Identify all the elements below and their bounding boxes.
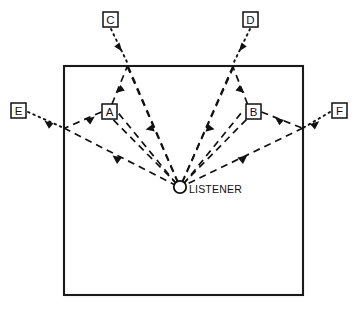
arrowhead-C-incoming: [114, 43, 122, 52]
ray-E-reflect-to-listener: [64, 128, 177, 186]
source-letter-C: C: [106, 14, 114, 26]
arrowhead-F-incoming: [310, 121, 319, 129]
listener-label: LISTENER: [189, 183, 242, 195]
ray-E-incoming-group: [28, 112, 64, 129]
ray-F-incoming-group: [303, 112, 330, 129]
listener-circle: [174, 181, 186, 193]
ray-A-group: [112, 67, 178, 185]
source-label-C: C: [103, 12, 118, 27]
ray-listener-to-left-wall-inner: [118, 112, 177, 184]
source-letter-D: D: [246, 14, 254, 26]
ray-F-reflect-group: [183, 128, 303, 186]
path-label-A: A: [102, 104, 117, 119]
source-label-E: E: [11, 103, 26, 118]
arrowhead-D-incoming: [239, 43, 247, 52]
arrowhead-E-incoming: [44, 121, 53, 129]
path-letter-B: B: [250, 106, 258, 118]
arrowhead-B-up: [236, 85, 245, 93]
ray-D-incoming-group: [233, 29, 250, 64]
source-label-D: D: [243, 12, 258, 27]
ray-E-incoming: [28, 112, 64, 128]
ray-E-reflect-group: [64, 128, 177, 186]
arrowhead-F-reflect: [238, 156, 248, 165]
ray-A-lower-segment: [113, 119, 178, 185]
arrowhead-A-up: [116, 85, 125, 93]
ray-listener-to-leftwall-group: [65, 112, 177, 184]
ray-listener-to-right-wall-inner: [184, 112, 243, 184]
source-letter-F: F: [336, 105, 343, 117]
path-letter-A: A: [106, 106, 114, 118]
source-letter-E: E: [15, 105, 23, 117]
ray-B-group: [183, 67, 248, 185]
source-label-F: F: [332, 103, 347, 118]
ray-listener-to-left-wall-outer: [65, 112, 102, 128]
ray-A-upper-segment: [112, 67, 127, 104]
path-label-B: B: [246, 104, 261, 119]
reflection-diagram: LISTENER C D E F A: [0, 0, 355, 309]
diagram-canvas: LISTENER C D E F A: [0, 0, 355, 309]
ray-C-incoming-group: [111, 29, 128, 64]
ray-B-lower-segment: [183, 119, 248, 185]
